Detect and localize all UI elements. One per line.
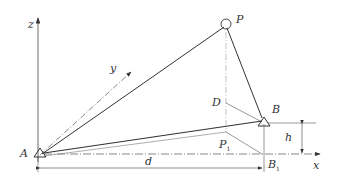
line-P1B1: [226, 132, 262, 154]
diagram: z y P A D B P1 B1 d h x: [0, 0, 338, 184]
label-B1-sub: 1: [276, 165, 280, 172]
label-D: D: [212, 97, 221, 108]
label-B1-main: B: [268, 158, 276, 171]
label-P: P: [236, 14, 243, 25]
label-B: B: [272, 104, 280, 115]
label-x: x: [313, 160, 319, 171]
label-B1: B1: [268, 159, 280, 172]
line-DB: [226, 103, 262, 122]
label-y: y: [110, 63, 116, 74]
line-AB-thin: [44, 132, 226, 156]
line-AP: [42, 27, 224, 154]
label-z: z: [28, 19, 34, 30]
label-P1-sub: 1: [226, 145, 230, 152]
label-d: d: [145, 156, 152, 167]
label-h: h: [285, 132, 292, 143]
point-P-icon: [221, 19, 231, 29]
geometry-drawing: [0, 0, 338, 184]
line-PB: [227, 28, 262, 118]
label-A: A: [20, 148, 28, 159]
label-P1: P1: [219, 139, 230, 152]
